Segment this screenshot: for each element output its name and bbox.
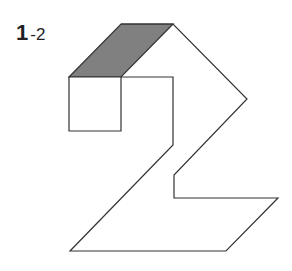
shaded-top-face	[69, 24, 173, 77]
numeral-two-diagram	[0, 0, 292, 271]
front-square-face	[69, 77, 121, 131]
